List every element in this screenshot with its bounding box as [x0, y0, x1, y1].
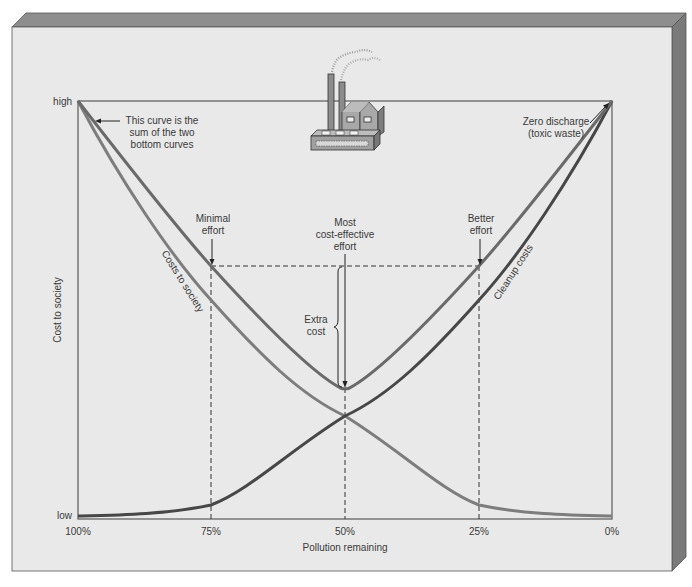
panel	[12, 13, 686, 571]
sum-note-line-2: sum of the two	[129, 127, 194, 138]
panel-top-bevel	[12, 13, 686, 27]
sum-note-line-3: bottom curves	[131, 139, 194, 150]
better-effort-line-1: Better	[468, 213, 495, 224]
minimal-effort-line-1: Minimal	[196, 213, 230, 224]
most-effective-line-3: effort	[334, 241, 357, 252]
most-effective-line-1: Most	[334, 217, 356, 228]
x-axis-label: Pollution remaining	[302, 542, 387, 553]
x-tick-25: 25%	[469, 526, 489, 537]
y-tick-high: high	[53, 96, 72, 107]
zero-discharge-line-1: Zero discharge	[523, 116, 590, 127]
better-effort-line-2: effort	[470, 225, 493, 236]
y-axis-label: Cost to society	[52, 277, 63, 343]
sum-note-line-1: This curve is the	[126, 115, 199, 126]
extra-cost-line-2: cost	[307, 326, 326, 337]
y-tick-low: low	[57, 510, 73, 521]
pollution-cost-chart: high low Cost to society 100% 75% 50% 25…	[0, 0, 692, 587]
x-tick-50: 50%	[335, 526, 355, 537]
x-tick-0: 0%	[605, 526, 620, 537]
minimal-effort-line-2: effort	[202, 225, 225, 236]
zero-discharge-line-2: (toxic waste)	[528, 128, 584, 139]
extra-cost-line-1: Extra	[304, 314, 328, 325]
x-tick-75: 75%	[201, 526, 221, 537]
most-effective-line-2: cost-effective	[316, 229, 375, 240]
panel-side-bevel	[672, 13, 686, 571]
x-tick-100: 100%	[65, 526, 91, 537]
